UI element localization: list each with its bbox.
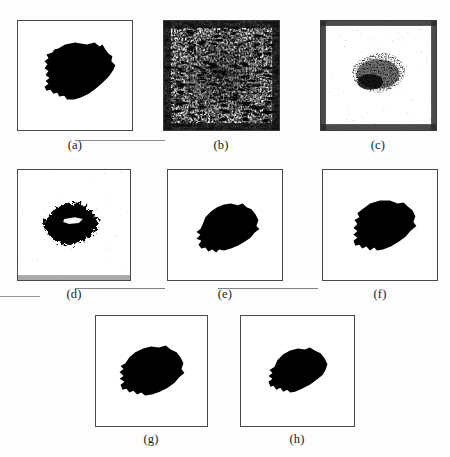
caption-c: (c) [358, 138, 398, 152]
caption-b: (b) [201, 138, 241, 152]
panel-g-image [96, 316, 207, 426]
panel-e [167, 169, 283, 281]
scan-artifact-rule [0, 296, 40, 297]
panel-a-image [18, 21, 132, 130]
caption-g: (g) [131, 432, 171, 446]
panel-b-image [164, 21, 279, 130]
panel-g [95, 315, 208, 427]
panel-d-image [18, 170, 130, 280]
scan-artifact-rule [218, 288, 318, 289]
panel-e-image [168, 170, 282, 280]
panel-f-image [323, 170, 437, 280]
caption-h: (h) [277, 432, 317, 446]
panel-f [322, 169, 438, 281]
scan-artifact-rule [75, 140, 165, 141]
panel-d [17, 169, 131, 281]
panel-a [17, 20, 133, 131]
caption-e: (e) [205, 287, 245, 301]
caption-f: (f) [360, 287, 400, 301]
panel-c-image [321, 21, 436, 130]
figure-sheet: (a) [0, 0, 450, 457]
panel-c [320, 20, 437, 131]
panel-h [240, 315, 355, 427]
panel-b [163, 20, 280, 131]
panel-h-image [241, 316, 354, 426]
scan-artifact-rule [75, 288, 165, 289]
caption-d: (d) [54, 287, 94, 301]
